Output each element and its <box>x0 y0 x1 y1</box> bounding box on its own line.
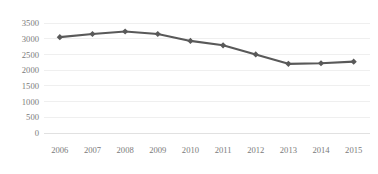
x-axis-tick-label: 2009 <box>149 145 166 155</box>
x-axis-tick-label: 2007 <box>84 145 102 155</box>
y-axis-tick-label: 2500 <box>22 50 39 60</box>
y-axis-tick-label: 1500 <box>22 81 39 91</box>
x-axis-tick-label: 2008 <box>117 145 134 155</box>
y-axis-tick-label: 3000 <box>22 34 39 44</box>
y-axis-tick-label: 500 <box>26 112 39 122</box>
x-axis-tick-label: 2012 <box>247 145 264 155</box>
x-axis-tick-label: 2013 <box>280 145 297 155</box>
y-axis-tick-label: 0 <box>35 128 39 138</box>
x-axis-tick-label: 2010 <box>182 145 199 155</box>
x-axis-tick-label: 2015 <box>345 145 362 155</box>
x-axis-tick-label: 2006 <box>51 145 69 155</box>
x-axis-tick-label: 2014 <box>312 145 330 155</box>
line-chart: 0500100015002000250030003500 20062007200… <box>0 0 378 174</box>
chart-canvas: 0500100015002000250030003500 20062007200… <box>0 0 378 174</box>
y-axis-tick-label: 2000 <box>22 65 39 75</box>
y-axis-tick-label: 3500 <box>22 18 39 28</box>
x-axis-tick-label: 2011 <box>215 145 232 155</box>
y-axis-tick-label: 1000 <box>22 97 39 107</box>
